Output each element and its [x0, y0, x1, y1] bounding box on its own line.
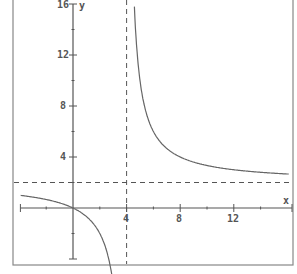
y-tick-label-12: 12: [57, 50, 69, 60]
asymptotes: [14, 0, 292, 264]
y-tick-label-16: 16: [57, 0, 69, 10]
axes: [20, 4, 292, 259]
x-axis-label: x: [283, 196, 289, 206]
x-tick-label-12: 12: [227, 214, 239, 224]
plot-frame: [13, 0, 293, 265]
function-curve: [21, 7, 289, 274]
y-tick-label-8: 8: [60, 101, 66, 111]
x-tick-label-8: 8: [176, 214, 182, 224]
x-tick-label-4: 4: [123, 214, 129, 224]
y-axis-label: y: [79, 1, 85, 11]
function-graph: [0, 0, 297, 274]
y-tick-label-4: 4: [60, 152, 66, 162]
